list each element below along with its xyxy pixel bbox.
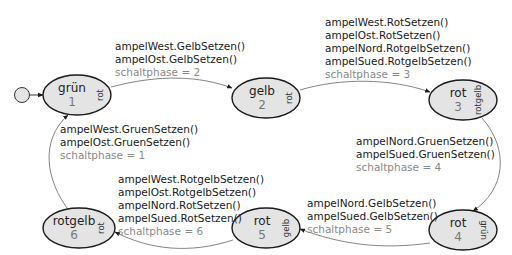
svg-text:grün: grün <box>58 81 86 95</box>
svg-text:rot: rot <box>95 88 105 101</box>
svg-text:rot: rot <box>450 216 467 230</box>
svg-text:rotgelb: rotgelb <box>473 85 483 115</box>
initial-state <box>15 88 30 103</box>
edge-3-4 <box>473 118 500 211</box>
state-diagram: grün 1 rot gelb 2 rot rot 3 rotgelb rot … <box>0 0 512 255</box>
svg-text:3: 3 <box>454 100 462 114</box>
edge-1-2 <box>111 78 232 88</box>
svg-text:ampelSued.GruenSetzen(): ampelSued.GruenSetzen() <box>356 148 495 160</box>
svg-text:gelb: gelb <box>249 84 275 98</box>
transition-label-2-3: ampelWest.RotSetzen() ampelOst.RotSetzen… <box>325 16 472 80</box>
transition-label-6-1: ampelWest.GruenSetzen() ampelOst.GruenSe… <box>60 123 198 161</box>
svg-text:ampelNord.RotSetzen(): ampelNord.RotSetzen() <box>118 199 241 211</box>
svg-text:ampelWest.GruenSetzen(): ampelWest.GruenSetzen() <box>60 123 198 135</box>
state-3: rot 3 rotgelb <box>429 80 497 120</box>
svg-text:schaltphase = 1: schaltphase = 1 <box>60 149 145 161</box>
svg-text:schaltphase = 3: schaltphase = 3 <box>325 68 410 80</box>
transition-label-1-2: ampelWest.GelbSetzen() ampelOst.GelbSetz… <box>115 40 245 78</box>
svg-text:6: 6 <box>70 228 78 242</box>
svg-text:ampelOst.RotSetzen(): ampelOst.RotSetzen() <box>325 29 440 41</box>
svg-text:grün: grün <box>479 220 489 240</box>
state-4: rot 4 grün <box>429 210 497 250</box>
svg-text:gelb: gelb <box>281 219 291 237</box>
svg-text:rotgelb: rotgelb <box>53 214 96 228</box>
state-1: grün 1 rot <box>43 75 111 115</box>
svg-text:rot: rot <box>254 214 271 228</box>
svg-text:2: 2 <box>258 98 266 112</box>
svg-text:ampelSued.GelbSetzen(): ampelSued.GelbSetzen() <box>307 210 438 222</box>
svg-text:schaltphase = 4: schaltphase = 4 <box>356 161 442 173</box>
transition-label-3-4: ampelNord.GruenSetzen() ampelSued.GruenS… <box>356 135 495 173</box>
svg-text:ampelNord.GruenSetzen(): ampelNord.GruenSetzen() <box>356 135 493 147</box>
svg-text:schaltphase = 5: schaltphase = 5 <box>307 223 392 235</box>
svg-text:schaltphase = 6: schaltphase = 6 <box>118 225 204 237</box>
svg-text:ampelSued.RotSetzen(): ampelSued.RotSetzen() <box>118 212 242 224</box>
svg-text:1: 1 <box>68 95 76 109</box>
svg-text:rot: rot <box>96 221 106 234</box>
svg-text:rot: rot <box>284 91 294 104</box>
state-6: rotgelb 6 rot <box>43 208 115 248</box>
svg-text:rot: rot <box>450 86 467 100</box>
svg-text:5: 5 <box>258 228 266 242</box>
transition-label-4-5: ampelNord.GelbSetzen() ampelSued.GelbSet… <box>307 197 438 235</box>
svg-text:ampelNord.RotgelbSetzen(): ampelNord.RotgelbSetzen() <box>325 42 470 54</box>
state-5: rot 5 gelb <box>232 208 300 248</box>
svg-text:ampelWest.RotgelbSetzen(): ampelWest.RotgelbSetzen() <box>118 173 264 185</box>
svg-text:ampelOst.GruenSetzen(): ampelOst.GruenSetzen() <box>60 136 190 148</box>
svg-text:ampelNord.GelbSetzen(): ampelNord.GelbSetzen() <box>307 197 436 209</box>
svg-text:ampelWest.GelbSetzen(): ampelWest.GelbSetzen() <box>115 40 245 52</box>
edge-2-3 <box>300 81 430 92</box>
svg-text:ampelWest.RotSetzen(): ampelWest.RotSetzen() <box>325 16 448 28</box>
svg-text:ampelSued.RotgelbSetzen(): ampelSued.RotgelbSetzen() <box>325 55 472 67</box>
svg-text:ampelOst.RotgelbSetzen(): ampelOst.RotgelbSetzen() <box>118 186 256 198</box>
svg-text:schaltphase = 2: schaltphase = 2 <box>115 66 200 78</box>
svg-text:ampelOst.GelbSetzen(): ampelOst.GelbSetzen() <box>115 53 237 65</box>
svg-text:4: 4 <box>454 230 462 244</box>
state-2: gelb 2 rot <box>232 78 300 118</box>
